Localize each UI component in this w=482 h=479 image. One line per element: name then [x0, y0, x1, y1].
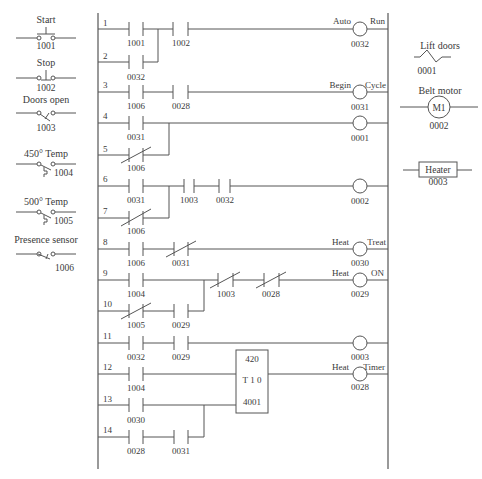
svg-text:1003: 1003 — [217, 289, 236, 299]
legend-belt-motor: Belt motor M1 0002 — [400, 85, 478, 131]
rung-14: 14 0028 0031 — [98, 405, 204, 456]
svg-text:Heat: Heat — [332, 237, 349, 247]
svg-text:0028: 0028 — [172, 101, 191, 111]
svg-text:Timer: Timer — [363, 362, 385, 372]
svg-text:1006: 1006 — [55, 263, 74, 273]
timer-block: 420 T 1 0 4001 — [236, 350, 268, 413]
svg-text:1006: 1006 — [127, 226, 146, 236]
svg-text:0001: 0001 — [418, 66, 437, 76]
svg-text:1001: 1001 — [37, 41, 56, 51]
contact-nc-1002 — [173, 22, 188, 36]
svg-text:1005: 1005 — [127, 320, 146, 330]
svg-text:4001: 4001 — [243, 397, 261, 407]
svg-text:8: 8 — [103, 237, 108, 247]
rung-6: 6 0031 1003 0032 0002 — [98, 174, 388, 206]
svg-text:Belt motor: Belt motor — [418, 85, 462, 96]
rung-7: 7 1006 — [98, 186, 169, 236]
svg-text:0031: 0031 — [127, 195, 145, 205]
legend-start: Start 1001 — [16, 14, 76, 51]
rung-1: 1 1001 1002 Auto Run 0032 — [98, 16, 388, 49]
legend-lift-doors: Lift doors 0001 — [414, 40, 460, 76]
svg-text:Heater: Heater — [425, 165, 451, 175]
svg-text:500° Temp: 500° Temp — [24, 196, 68, 207]
svg-text:1004: 1004 — [127, 383, 146, 393]
svg-text:12: 12 — [103, 362, 112, 372]
svg-text:0029: 0029 — [172, 352, 191, 362]
svg-text:1003: 1003 — [37, 123, 56, 133]
svg-text:0028: 0028 — [351, 382, 370, 392]
svg-text:0002: 0002 — [351, 196, 369, 206]
svg-text:11: 11 — [103, 331, 112, 341]
svg-text:Cycle: Cycle — [365, 80, 386, 90]
svg-text:0030: 0030 — [351, 258, 370, 268]
rung-5: 5 1006 — [98, 123, 169, 173]
svg-text:0031: 0031 — [351, 102, 369, 112]
svg-text:0029: 0029 — [172, 320, 191, 330]
svg-text:14: 14 — [103, 425, 113, 435]
svg-text:0028: 0028 — [262, 289, 281, 299]
svg-text:1006: 1006 — [127, 163, 146, 173]
svg-text:0003: 0003 — [429, 177, 448, 187]
svg-text:1004: 1004 — [54, 168, 73, 178]
ladder-diagram: Start 1001 Stop 1002 Doors open 1003 450… — [0, 0, 482, 479]
coil-0001 — [353, 116, 367, 130]
svg-text:1005: 1005 — [54, 216, 73, 226]
legend-presence-sensor: Presence sensor 1006 — [14, 234, 78, 273]
coil-0029 — [353, 273, 367, 287]
svg-text:420: 420 — [245, 354, 259, 364]
svg-text:0032: 0032 — [127, 352, 145, 362]
coil-0003 — [353, 336, 367, 350]
svg-text:T 1 0: T 1 0 — [243, 375, 262, 385]
svg-text:0003: 0003 — [351, 352, 370, 362]
svg-text:9: 9 — [103, 268, 108, 278]
svg-text:1001: 1001 — [127, 38, 145, 48]
svg-text:4: 4 — [103, 111, 108, 121]
svg-text:0031: 0031 — [127, 132, 145, 142]
svg-text:Lift doors: Lift doors — [420, 40, 460, 51]
svg-text:1004: 1004 — [127, 289, 146, 299]
svg-text:Stop: Stop — [37, 57, 55, 68]
rung-8: 8 1006 0031 Heat Treat 0030 — [98, 237, 388, 268]
contact-no-1001 — [129, 22, 143, 36]
svg-text:5: 5 — [103, 144, 108, 154]
svg-text:0031: 0031 — [172, 446, 190, 456]
svg-text:0031: 0031 — [172, 258, 190, 268]
svg-text:Doors open: Doors open — [23, 94, 69, 105]
svg-text:Presence sensor: Presence sensor — [14, 234, 78, 245]
svg-text:0001: 0001 — [351, 133, 369, 143]
svg-text:0028: 0028 — [127, 446, 146, 456]
svg-text:0032: 0032 — [351, 39, 369, 49]
svg-text:13: 13 — [103, 394, 113, 404]
svg-text:10: 10 — [103, 299, 113, 309]
legend-500-temp: 500° Temp 1005 — [16, 196, 76, 226]
coil-0002 — [353, 179, 367, 193]
svg-text:1003: 1003 — [180, 195, 199, 205]
svg-text:0030: 0030 — [127, 415, 146, 425]
svg-text:Start: Start — [37, 14, 56, 25]
coil-0032 — [353, 22, 367, 36]
svg-text:1006: 1006 — [127, 258, 146, 268]
svg-text:Begin: Begin — [330, 80, 352, 90]
svg-text:1006: 1006 — [127, 101, 146, 111]
legend-450-temp: 450° Temp 1004 — [16, 148, 76, 178]
legend-heater: Heater 0003 — [403, 162, 472, 187]
svg-text:1002: 1002 — [172, 38, 190, 48]
rung-2: 2 0032 — [98, 29, 158, 82]
svg-text:Heat: Heat — [332, 362, 349, 372]
svg-text:Heat: Heat — [332, 268, 349, 278]
rung-13: 13 0030 — [98, 394, 236, 425]
rung-10: 10 1005 0029 — [98, 280, 204, 330]
svg-text:6: 6 — [103, 174, 108, 184]
svg-text:7: 7 — [103, 206, 108, 216]
svg-text:M1: M1 — [432, 103, 445, 113]
svg-text:0032: 0032 — [216, 195, 234, 205]
svg-text:3: 3 — [103, 80, 108, 90]
svg-text:0002: 0002 — [430, 121, 449, 131]
legend-doors-open: Doors open 1003 — [16, 94, 76, 133]
rung-4: 4 0031 0001 — [98, 111, 388, 143]
coil-0030 — [353, 242, 367, 256]
svg-text:2: 2 — [103, 51, 108, 61]
svg-text:Auto: Auto — [333, 16, 352, 26]
legend-stop: Stop 1002 — [16, 57, 76, 93]
rung-9: 9 1004 1003 0028 Heat ON 0029 — [98, 268, 388, 299]
